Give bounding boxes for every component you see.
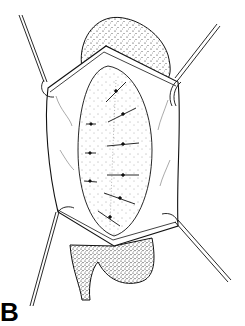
lower-organ [70,238,154,300]
stay-suture-top-left [19,15,54,97]
stay-suture-bottom-left [30,207,74,306]
panel-label: B [0,299,19,325]
surgical-illustration [0,0,245,326]
